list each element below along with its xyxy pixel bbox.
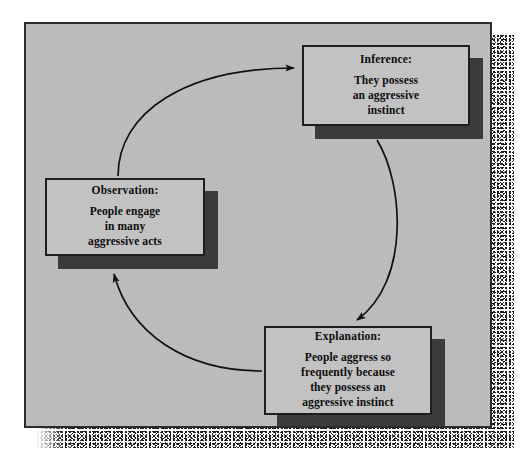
arrow-explanation-to-observation: [114, 274, 262, 371]
node-inference[interactable]: Inference: They possess an aggressive in…: [302, 45, 470, 126]
node-observation[interactable]: Observation: People engage in many aggre…: [45, 178, 205, 256]
node-inference-line-2: an aggressive: [353, 88, 420, 103]
node-observation-title: Observation:: [92, 184, 159, 197]
node-observation-line-1: People engage: [88, 204, 162, 219]
node-inference-body: They possess an aggressive instinct: [353, 73, 420, 119]
node-explanation-line-2: frequently because: [301, 365, 395, 380]
node-observation-body: People engage in many aggressive acts: [88, 204, 162, 250]
node-explanation-line-4: aggressive instinct: [301, 395, 395, 410]
node-explanation-face: Explanation: People aggress so frequentl…: [264, 326, 432, 415]
arrow-observation-to-inference: [118, 68, 294, 176]
arrow-inference-to-explanation: [357, 140, 397, 320]
diagram-panel: Inference: They possess an aggressive in…: [24, 22, 492, 428]
node-inference-title: Inference:: [360, 53, 412, 66]
node-explanation-body: People aggress so frequently because the…: [301, 350, 395, 411]
node-explanation-line-1: People aggress so: [301, 350, 395, 365]
node-inference-face: Inference: They possess an aggressive in…: [302, 45, 470, 126]
node-observation-line-2: in many: [88, 219, 162, 234]
diagram-canvas: Inference: They possess an aggressive in…: [0, 0, 527, 470]
node-inference-line-3: instinct: [353, 103, 420, 118]
node-explanation-line-3: they possess an: [301, 380, 395, 395]
node-explanation[interactable]: Explanation: People aggress so frequentl…: [264, 326, 432, 415]
node-explanation-title: Explanation:: [315, 330, 381, 343]
node-observation-line-3: aggressive acts: [88, 234, 162, 249]
node-observation-face: Observation: People engage in many aggre…: [45, 178, 205, 256]
node-inference-line-1: They possess: [353, 73, 420, 88]
